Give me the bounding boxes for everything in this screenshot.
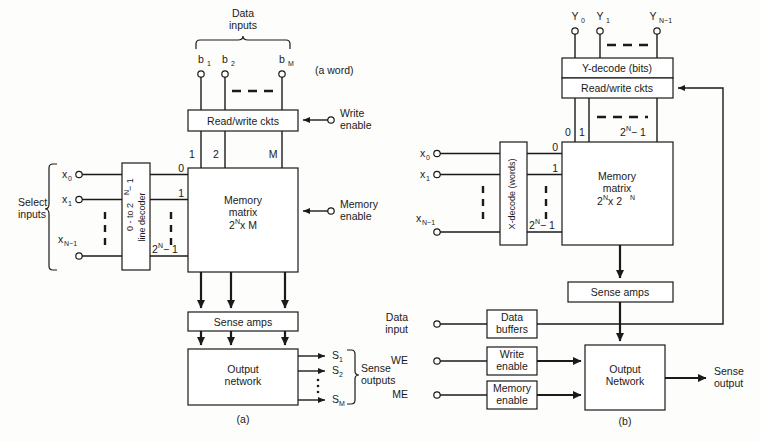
sense-output-label-line2-b: output xyxy=(714,377,743,389)
write-enable-label-line2-a: enable xyxy=(340,119,372,131)
terminal-circle-we-b[interactable] xyxy=(434,358,440,364)
s-output-label-2: S xyxy=(332,364,339,376)
terminal-circle-memory-enable-a[interactable] xyxy=(328,208,334,214)
data-input-label-line2-b: input xyxy=(385,323,408,335)
y-subscript-yn-b: N−1 xyxy=(659,17,672,24)
terminal-circle-yn-b[interactable] xyxy=(654,28,660,34)
s-output-subscript-1: 1 xyxy=(339,356,343,363)
write-enable-label-line2-b: enable xyxy=(496,360,528,372)
y-label-yn-b: Y xyxy=(649,10,656,22)
bit-subscript-b2: 2 xyxy=(231,60,235,67)
terminal-circle-b2[interactable] xyxy=(222,71,228,77)
diagram-b: Y 0 Y 1 Y N−1 Y-decode (bits) Read/write… xyxy=(385,10,744,427)
x-terminal-x1-b: x 1 xyxy=(420,168,500,182)
col-label-last-tail-b: − 1 xyxy=(631,126,646,138)
line-decoder-range-tail-a: − 1 xyxy=(125,178,135,191)
x-terminal-xn-a: x N−1 xyxy=(58,233,122,259)
row-label-last-tail-a: − 1 xyxy=(163,243,178,255)
terminal-circle-write-enable-a[interactable] xyxy=(328,117,334,123)
memory-matrix-size-sup2-b: N xyxy=(630,194,635,201)
terminal-circle-xn-b[interactable] xyxy=(434,229,440,235)
terminal-circle-bM[interactable] xyxy=(279,71,285,77)
select-inputs-brace xyxy=(45,164,57,270)
row-label-1-a: 1 xyxy=(178,187,184,199)
x-subscript-x1-b: 1 xyxy=(426,175,430,182)
caption-a: (a) xyxy=(237,413,250,425)
write-enable-label-line1-a: Write xyxy=(340,107,364,119)
output-network-label-line1-b: Output xyxy=(609,363,641,375)
s-output-label-M: S xyxy=(332,393,339,405)
sense-outputs-brace xyxy=(347,350,359,404)
col-label-last-b: 2 N − 1 xyxy=(620,125,646,138)
terminal-circle-xn-a[interactable] xyxy=(76,253,82,259)
data-input-label-line1-b: Data xyxy=(386,311,408,323)
sense-amps-label-a: Sense amps xyxy=(214,316,272,328)
x-terminal-x0-a: x 0 xyxy=(62,168,122,182)
bit-label-bM: b xyxy=(279,53,285,65)
output-network-label-line1-a: Output xyxy=(227,363,259,375)
line-decoder-label-line2-a: line decoder xyxy=(137,192,147,241)
terminal-circle-x0-a[interactable] xyxy=(76,171,82,177)
bit-subscript-bM: M xyxy=(288,60,294,67)
bit-terminal-bM: b M xyxy=(279,53,294,110)
x-terminal-x1-a: x 1 xyxy=(62,193,122,207)
memory-enable-label-line1-b: Memory xyxy=(493,382,532,394)
bit-label-b2: b xyxy=(222,53,228,65)
terminal-circle-y1-b[interactable] xyxy=(597,28,603,34)
memory-matrix-label-line1-a: Memory xyxy=(224,194,263,206)
memory-matrix-label-line1-b: Memory xyxy=(598,170,637,182)
s-output-subscript-2: 2 xyxy=(339,371,343,378)
output-network-label-line2-a: network xyxy=(225,375,263,387)
output-network-label-line2-b: Network xyxy=(606,375,645,387)
y-subscript-y0-b: 0 xyxy=(581,17,585,24)
sense-output-s1-a: S 1 xyxy=(298,349,343,363)
sense-output-sM-a: S M xyxy=(298,393,345,407)
memory-enable-label-line1-a: Memory xyxy=(340,198,379,210)
memory-matrix-size-tail-a: x M xyxy=(240,219,257,231)
memory-matrix-size-mid-b: x 2 xyxy=(608,195,622,207)
row-label-last-a: 2 N − 1 xyxy=(152,242,178,255)
terminal-circle-y0-b[interactable] xyxy=(572,28,578,34)
data-buffers-label-line2-b: buffers xyxy=(496,323,528,335)
vertical-ellipsis-s-outputs xyxy=(317,379,320,394)
data-buffers-label-line1-b: Data xyxy=(501,311,523,323)
row-label-last-tail-b: − 1 xyxy=(540,219,555,231)
y-subscript-y1-b: 1 xyxy=(606,17,610,24)
row-label-1-b: 1 xyxy=(552,162,558,174)
y-label-y0-b: Y xyxy=(571,10,578,22)
s-output-label-1: S xyxy=(332,349,339,361)
terminal-circle-b1[interactable] xyxy=(198,71,204,77)
sense-outputs-label-line2-a: outputs xyxy=(361,374,395,386)
bit-label-b1: b xyxy=(198,53,204,65)
terminal-circle-data-input-b[interactable] xyxy=(434,321,440,327)
read-write-ckts-label-a: Read/write ckts xyxy=(207,115,279,127)
memory-organization-figure: Data inputs b 1 b 2 b M (a word) Re xyxy=(0,0,760,442)
y-terminal-yn-b: Y N−1 xyxy=(649,10,672,58)
we-label-b: WE xyxy=(391,354,408,366)
x-subscript-x0-b: 0 xyxy=(426,154,430,161)
x-terminal-xn-b: x N−1 xyxy=(416,212,500,235)
terminal-circle-x1-a[interactable] xyxy=(76,196,82,202)
x-subscript-x0-a: 0 xyxy=(68,175,72,182)
x-subscript-x1-a: 1 xyxy=(68,200,72,207)
y-terminal-y1-b: Y 1 xyxy=(596,10,610,58)
memory-matrix-label-line3-a: 2 N x M xyxy=(229,218,257,231)
diagram-a: Data inputs b 1 b 2 b M (a word) Re xyxy=(18,7,395,425)
sense-output-s2-a: S 2 xyxy=(298,364,343,378)
write-enable-label-line1-b: Write xyxy=(500,348,524,360)
memory-enable-label-line2-a: enable xyxy=(340,210,372,222)
terminal-circle-me-b[interactable] xyxy=(434,392,440,398)
x-terminal-x0-b: x 0 xyxy=(420,147,500,161)
row-label-0-a: 0 xyxy=(178,162,184,174)
memory-enable-label-line2-b: enable xyxy=(496,394,528,406)
sense-amps-label-b: Sense amps xyxy=(591,286,649,298)
read-write-ckts-label-b: Read/write ckts xyxy=(581,82,653,94)
terminal-circle-x0-b[interactable] xyxy=(434,150,440,156)
col-label-1-b: 1 xyxy=(579,126,585,138)
x-subscript-xn-a: N−1 xyxy=(64,240,77,247)
row-label-0-b: 0 xyxy=(552,141,558,153)
terminal-circle-x1-b[interactable] xyxy=(434,171,440,177)
sense-outputs-label-line1-a: Sense xyxy=(361,362,391,374)
column-label-2: 2 xyxy=(213,148,219,160)
bit-terminal-b2: b 2 xyxy=(222,53,235,110)
